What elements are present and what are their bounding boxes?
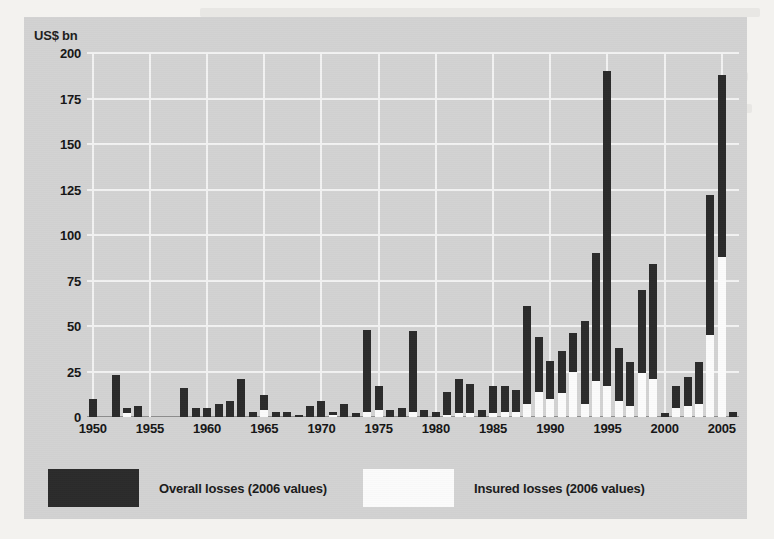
bar-insured-segment-2001	[672, 408, 680, 417]
bar-insured-segment-1974	[363, 412, 371, 417]
gridline-vertical	[664, 53, 666, 417]
bar-1969	[306, 406, 314, 417]
gridline-vertical	[435, 53, 437, 417]
bar-1960	[203, 408, 211, 417]
bar-insured-segment-1981	[443, 415, 451, 417]
bar-insured-segment-1986	[501, 412, 509, 417]
bar-1950	[89, 399, 97, 417]
chart-legend: Overall losses (2006 values) Insured los…	[24, 469, 747, 515]
y-axis-tick-labels: 0255075100125150175200	[27, 53, 81, 417]
bar-1975	[375, 386, 383, 417]
bar-insured-segment-1990	[546, 399, 554, 417]
x-axis-tick-2005: 2005	[708, 421, 736, 436]
bar-insured-segment-1991	[558, 393, 566, 417]
bar-1952	[112, 375, 120, 417]
bar-1976	[386, 410, 394, 417]
bar-1997	[626, 362, 634, 417]
bar-1964	[249, 412, 257, 417]
gridline-vertical	[320, 53, 322, 417]
bar-1968	[295, 415, 303, 417]
plot-inner	[87, 53, 739, 417]
gridline-horizontal	[87, 143, 739, 145]
bar-insured-segment-1978	[409, 412, 417, 417]
bar-1991	[558, 351, 566, 417]
bar-insured-segment-1995	[603, 386, 611, 417]
ghost-text-line	[200, 8, 760, 17]
bar-1988	[523, 306, 531, 417]
x-axis-tick-1980: 1980	[422, 421, 450, 436]
bar-insured-segment-1971	[329, 415, 337, 417]
y-axis-tick-200: 200	[29, 46, 81, 61]
bar-1996	[615, 348, 623, 417]
bar-1954	[134, 406, 142, 417]
y-axis-tick-0: 0	[29, 410, 81, 425]
gridline-horizontal	[87, 189, 739, 191]
bar-2006	[729, 412, 737, 417]
bar-1995	[603, 71, 611, 417]
bar-1965	[260, 395, 268, 417]
x-axis-tick-labels: 1950195519601965197019751980198519901995…	[87, 421, 739, 445]
bar-insured-segment-1997	[626, 406, 634, 417]
x-axis-tick-1970: 1970	[307, 421, 335, 436]
bar-1999	[649, 264, 657, 417]
bar-2005	[718, 75, 726, 417]
bar-1966	[272, 412, 280, 417]
bar-insured-segment-2005	[718, 257, 726, 417]
bar-1971	[329, 412, 337, 417]
chart-figure-panel: US$ bn 0255075100125150175200 1950195519…	[24, 17, 747, 519]
bar-insured-segment-1993	[581, 404, 589, 417]
bar-2002	[684, 377, 692, 417]
legend-entry-insured: Insured losses (2006 values)	[363, 469, 645, 507]
legend-swatch-overall	[48, 469, 139, 507]
bar-insured-segment-1965	[260, 410, 268, 417]
bar-2000	[661, 413, 669, 417]
bar-1985	[489, 386, 497, 417]
x-axis-tick-1990: 1990	[536, 421, 564, 436]
bar-1989	[535, 337, 543, 417]
bar-insured-segment-1953	[123, 413, 131, 417]
x-axis-tick-1985: 1985	[479, 421, 507, 436]
bar-1959	[192, 408, 200, 417]
bar-1963	[237, 379, 245, 417]
gridline-horizontal	[87, 234, 739, 236]
x-axis-tick-1960: 1960	[193, 421, 221, 436]
bar-1984	[478, 410, 486, 417]
bar-1974	[363, 330, 371, 417]
bar-1994	[592, 253, 600, 417]
bar-insured-segment-1992	[569, 372, 577, 418]
bar-2003	[695, 362, 703, 417]
bar-insured-segment-1983	[466, 413, 474, 417]
bar-insured-segment-1999	[649, 379, 657, 417]
plot-area	[87, 53, 739, 417]
bar-1998	[638, 290, 646, 417]
bar-1967	[283, 412, 291, 417]
bar-1962	[226, 401, 234, 417]
legend-entry-overall: Overall losses (2006 values)	[48, 469, 327, 507]
bar-1953	[123, 408, 131, 417]
bar-insured-segment-2002	[684, 406, 692, 417]
bar-insured-segment-1996	[615, 401, 623, 417]
y-axis-tick-75: 75	[29, 273, 81, 288]
bar-1958	[180, 388, 188, 417]
y-axis-tick-125: 125	[29, 182, 81, 197]
y-axis-unit-label: US$ bn	[34, 28, 78, 43]
bar-insured-segment-1982	[455, 413, 463, 417]
bar-1972	[340, 404, 348, 417]
bar-1987	[512, 390, 520, 417]
bar-insured-segment-1989	[535, 392, 543, 417]
gridline-vertical	[492, 53, 494, 417]
bar-1970	[317, 401, 325, 417]
bar-2004	[706, 195, 714, 417]
bar-1990	[546, 361, 554, 417]
bar-1977	[398, 408, 406, 417]
bar-1982	[455, 379, 463, 417]
bar-insured-segment-1994	[592, 381, 600, 417]
bar-insured-segment-1975	[375, 410, 383, 417]
x-axis-tick-1955: 1955	[136, 421, 164, 436]
bar-insured-segment-2004	[706, 335, 714, 417]
gridline-horizontal	[87, 280, 739, 282]
bar-insured-segment-2003	[695, 404, 703, 417]
bar-1973	[352, 413, 360, 417]
x-axis-tick-1950: 1950	[79, 421, 107, 436]
gridline-horizontal	[87, 98, 739, 100]
